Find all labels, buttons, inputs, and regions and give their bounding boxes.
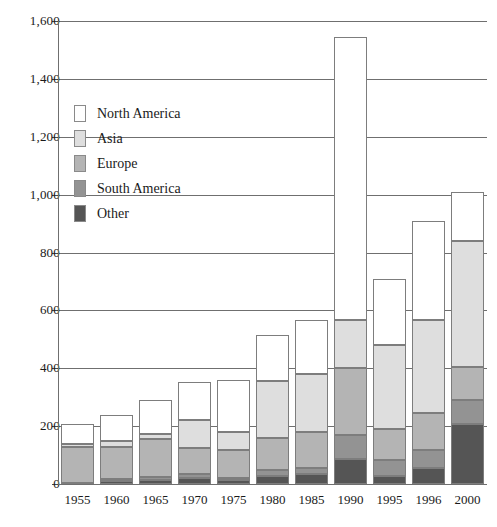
bar-segment-south-america[interactable]: [217, 478, 250, 480]
bar-segment-europe[interactable]: [178, 448, 211, 474]
bar-segment-north-america[interactable]: [100, 415, 133, 441]
bar-1970[interactable]: [178, 382, 211, 484]
bar-segment-europe[interactable]: [373, 429, 406, 460]
bar-segment-south-america[interactable]: [451, 400, 484, 424]
bar-segment-europe[interactable]: [100, 447, 133, 479]
bar-segment-other[interactable]: [178, 478, 211, 484]
x-axis-label-1970: 1970: [175, 492, 214, 507]
legend-label: Asia: [97, 131, 123, 147]
bar-segment-north-america[interactable]: [373, 279, 406, 345]
x-axis-label-1995: 1995: [370, 492, 409, 507]
legend-swatch-icon: [74, 205, 86, 222]
bar-1995[interactable]: [373, 279, 406, 484]
bar-segment-other[interactable]: [256, 476, 289, 484]
bar-segment-asia[interactable]: [217, 432, 250, 450]
bar-segment-south-america[interactable]: [334, 435, 367, 459]
x-axis-label-1955: 1955: [58, 492, 97, 507]
bar-1960[interactable]: [100, 415, 133, 484]
legend-swatch-icon: [74, 155, 86, 172]
bar-segment-asia[interactable]: [451, 241, 484, 367]
bar-1996[interactable]: [412, 221, 445, 484]
bar-segment-north-america[interactable]: [412, 221, 445, 320]
x-axis-label-1996: 1996: [409, 492, 448, 507]
bar-segment-europe[interactable]: [412, 413, 445, 450]
bar-segment-europe[interactable]: [217, 450, 250, 478]
bar-segment-north-america[interactable]: [139, 400, 172, 435]
bar-segment-asia[interactable]: [178, 420, 211, 448]
bar-segment-europe[interactable]: [295, 432, 328, 468]
bar-segment-north-america[interactable]: [61, 424, 94, 444]
x-axis-label-2000: 2000: [448, 492, 487, 507]
legend-swatch-icon: [74, 130, 86, 147]
legend-label: North America: [97, 106, 181, 122]
bar-segment-europe[interactable]: [139, 439, 172, 477]
bar-segment-asia[interactable]: [256, 381, 289, 438]
bar-segment-north-america[interactable]: [178, 382, 211, 420]
bar-segment-south-america[interactable]: [412, 450, 445, 468]
x-axis-label-1980: 1980: [253, 492, 292, 507]
stacked-bar-chart: 1,6001,4001,2001,0008006004002000 195519…: [0, 0, 497, 527]
x-axis-label-1965: 1965: [136, 492, 175, 507]
bar-segment-asia[interactable]: [61, 444, 94, 446]
bar-segment-other[interactable]: [373, 476, 406, 484]
bar-1975[interactable]: [217, 380, 250, 484]
legend-label: Other: [97, 206, 129, 222]
bar-segment-other[interactable]: [412, 468, 445, 484]
legend-swatch-icon: [74, 180, 86, 197]
x-axis-label-1975: 1975: [214, 492, 253, 507]
legend-item-asia[interactable]: Asia: [74, 126, 181, 151]
bar-2000[interactable]: [451, 192, 484, 484]
bar-segment-asia[interactable]: [295, 374, 328, 432]
bar-segment-europe[interactable]: [334, 368, 367, 435]
bar-1965[interactable]: [139, 400, 172, 484]
bar-segment-south-america[interactable]: [100, 479, 133, 481]
legend-item-south-america[interactable]: South America: [74, 176, 181, 201]
bar-segment-asia[interactable]: [139, 434, 172, 439]
legend-swatch-icon: [74, 105, 86, 122]
bar-segment-europe[interactable]: [451, 367, 484, 400]
bar-segment-north-america[interactable]: [451, 192, 484, 241]
bar-segment-south-america[interactable]: [139, 477, 172, 480]
legend-label: South America: [97, 181, 181, 197]
x-axis-label-1990: 1990: [331, 492, 370, 507]
bar-segment-other[interactable]: [295, 474, 328, 484]
legend-item-other[interactable]: Other: [74, 201, 181, 226]
bar-segment-other[interactable]: [100, 481, 133, 484]
bars-layer: [0, 0, 497, 527]
bar-segment-north-america[interactable]: [295, 320, 328, 374]
bar-segment-asia[interactable]: [412, 320, 445, 413]
bar-1955[interactable]: [61, 424, 94, 484]
x-axis-label-1985: 1985: [292, 492, 331, 507]
bar-segment-europe[interactable]: [256, 438, 289, 470]
legend-label: Europe: [97, 156, 137, 172]
bar-segment-north-america[interactable]: [334, 37, 367, 320]
bar-segment-other[interactable]: [451, 424, 484, 484]
bar-segment-asia[interactable]: [373, 345, 406, 429]
bar-segment-other[interactable]: [139, 480, 172, 484]
x-axis-label-1960: 1960: [97, 492, 136, 507]
legend-item-europe[interactable]: Europe: [74, 151, 181, 176]
legend-item-north-america[interactable]: North America: [74, 101, 181, 126]
bar-1990[interactable]: [334, 37, 367, 484]
bar-segment-north-america[interactable]: [256, 335, 289, 381]
bar-segment-asia[interactable]: [100, 441, 133, 447]
bar-segment-north-america[interactable]: [217, 380, 250, 432]
bar-segment-asia[interactable]: [334, 320, 367, 368]
bar-segment-south-america[interactable]: [295, 468, 328, 474]
bar-segment-south-america[interactable]: [256, 470, 289, 476]
bar-segment-south-america[interactable]: [373, 460, 406, 476]
bar-segment-other[interactable]: [217, 480, 250, 484]
bar-segment-south-america[interactable]: [178, 474, 211, 478]
bar-segment-europe[interactable]: [61, 447, 94, 483]
bar-segment-other[interactable]: [334, 459, 367, 484]
bar-1980[interactable]: [256, 335, 289, 484]
bar-1985[interactable]: [295, 320, 328, 484]
legend: North AmericaAsiaEuropeSouth AmericaOthe…: [74, 101, 181, 226]
